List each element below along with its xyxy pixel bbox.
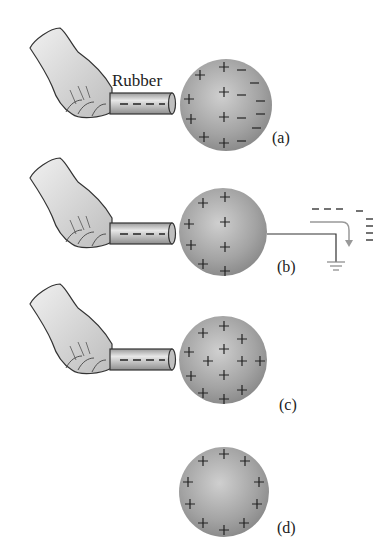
sphere-d (179, 447, 269, 537)
panel-b (30, 158, 176, 248)
arrowhead-icon (345, 240, 353, 247)
ground-symbol-icon (327, 262, 345, 270)
flow-arrow-icon (310, 222, 349, 243)
electron-flow-charges (312, 209, 373, 240)
panel-a: Rubber (a) (30, 28, 290, 151)
panel-label-c: (c) (279, 396, 297, 414)
hand-holding-rubber-rod (30, 158, 176, 248)
charging-by-induction-diagram: Rubber (a) (0, 0, 391, 553)
panel-b-sphere: (b) (179, 188, 373, 276)
sphere-b (179, 188, 267, 276)
sphere-c (179, 316, 267, 404)
panel-label-b: (b) (277, 258, 296, 276)
panel-label-a: (a) (272, 129, 290, 147)
panel-c (30, 284, 176, 374)
sphere-a (180, 59, 272, 151)
panel-d: (d) (179, 447, 296, 537)
rubber-label: Rubber (112, 71, 162, 90)
hand-holding-rubber-rod (30, 284, 176, 374)
panel-label-d: (d) (277, 519, 296, 537)
panel-c-sphere: (c) (179, 316, 297, 414)
